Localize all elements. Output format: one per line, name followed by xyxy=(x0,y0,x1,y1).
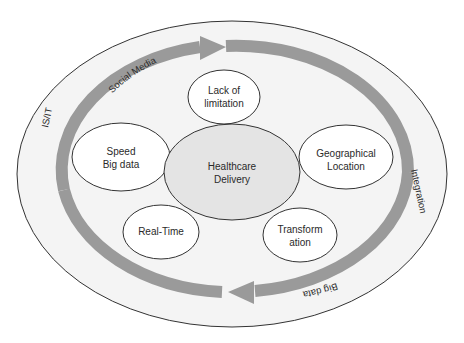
node-healthcare-delivery: Healthcare Delivery xyxy=(164,124,300,220)
svg-text:limitation: limitation xyxy=(204,98,243,109)
svg-text:Geographical: Geographical xyxy=(316,148,375,159)
node-transformation: Transform ation xyxy=(263,208,337,262)
healthcare-delivery-diagram: Social Media Big data IS/IT Integration … xyxy=(0,0,464,343)
svg-text:Big data: Big data xyxy=(103,159,140,170)
svg-text:Real-Time: Real-Time xyxy=(138,226,184,237)
svg-text:Speed: Speed xyxy=(107,146,136,157)
svg-text:Location: Location xyxy=(327,161,365,172)
svg-text:Lack of: Lack of xyxy=(208,85,240,96)
svg-text:Transform: Transform xyxy=(277,224,322,235)
node-geographical-location: Geographical Location xyxy=(299,125,393,189)
node-lack-of-limitation: Lack of limitation xyxy=(188,70,260,124)
svg-text:ation: ation xyxy=(289,237,311,248)
svg-text:Healthcare: Healthcare xyxy=(208,161,257,172)
node-real-time: Real-Time xyxy=(123,205,199,259)
node-speed-big-data: Speed Big data xyxy=(72,123,170,191)
svg-text:Delivery: Delivery xyxy=(214,174,250,185)
